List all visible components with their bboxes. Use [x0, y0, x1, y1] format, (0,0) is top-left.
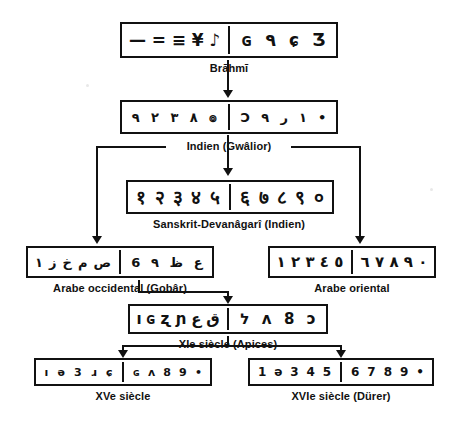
box-divider	[228, 26, 230, 54]
numeral-glyph: ٥	[334, 255, 343, 270]
numeral-glyph: 1	[258, 366, 266, 378]
scan-speck	[430, 188, 433, 191]
numeral-glyph: ق	[206, 312, 219, 327]
glyph-half-right: 6٩ظع	[122, 248, 212, 276]
numeral-glyph: ǝ	[274, 366, 282, 378]
numeral-glyph: م	[78, 256, 88, 269]
numeral-glyph: १	[136, 188, 146, 207]
numeral-glyph: ¥	[192, 32, 204, 49]
arrowhead-to-xve	[118, 350, 128, 358]
numeral-box-gwalior: ٩٢٣٨๏ Ɔ٩ر١•	[120, 100, 338, 134]
numeral-glyph: ٦	[361, 255, 370, 270]
glyph-half-left: 1ǝ345	[250, 360, 339, 384]
numeral-glyph: 6	[131, 256, 140, 269]
numeral-glyph: ♪	[209, 32, 220, 49]
numeral-glyph: •	[318, 111, 326, 124]
glyph-half-left: ıɢʐɲعق	[130, 306, 226, 332]
numeral-glyph: ظ	[170, 256, 184, 269]
glyph-half-left: ١زخمص	[28, 248, 118, 276]
numeral-glyph: •	[195, 367, 202, 378]
caption-gwalior: Indien (Gwâlior)	[187, 140, 272, 152]
numeral-glyph: 8	[284, 312, 294, 327]
numeral-glyph: ١	[277, 255, 286, 270]
numeral-box-arabe-oriental: ١٢٣٤٥ ٦٧٨٩٠	[268, 246, 436, 278]
numeral-glyph: ɲ	[176, 312, 187, 327]
caption-devanagari: Sanskrit-Devanâgarî (Indien)	[153, 218, 305, 230]
numeral-box-apices: ıɢʐɲعق לʌ8ɔ	[128, 304, 328, 334]
arrowhead-to-apices	[223, 296, 233, 304]
arrowhead-brahmi-to-gwalior	[223, 90, 233, 98]
numeral-glyph: ३	[173, 188, 183, 207]
glyph-half-left: —=≡¥♪	[122, 24, 227, 56]
numeral-glyph: ८	[277, 188, 287, 207]
box-divider	[228, 104, 230, 130]
numeral-glyph: ל	[240, 312, 249, 327]
connector-bus-to-arabe-oriental	[359, 146, 361, 238]
connector-gobar-to-apices-h	[138, 291, 228, 293]
numeral-glyph: ٩	[265, 32, 275, 49]
glyph-half-right: ɢ٩ɕƷ	[231, 24, 336, 56]
numeral-glyph: 8	[163, 367, 171, 378]
numeral-glyph: 3	[290, 366, 298, 378]
bus-line-right	[291, 146, 361, 148]
glyph-half-left: ١٢٣٤٥	[270, 248, 350, 276]
numeral-glyph: ٩	[132, 111, 140, 124]
numeral-glyph: ١	[35, 256, 43, 269]
box-divider	[119, 250, 121, 274]
numeral-glyph: ٢	[151, 111, 159, 124]
bus-line-left	[96, 146, 166, 148]
numeral-glyph: ɹ	[91, 367, 97, 378]
numeral-glyph: خ	[63, 256, 72, 269]
glyph-row: ١٢٣٤٥ ٦٧٨٩٠	[270, 248, 434, 276]
numeral-box-xvie-siecle: 1ǝ345 6789•	[248, 358, 434, 386]
glyph-half-left: ıǝ3ɹɕ	[36, 360, 121, 384]
glyph-row: 1ǝ345 6789•	[250, 360, 432, 384]
glyph-row: ١زخمص 6٩ظع	[28, 248, 212, 276]
numeral-box-xve-siecle: ıǝ3ɹɕ ɢʌ89•	[34, 358, 212, 386]
glyph-half-right: Ɔ٩ر١•	[231, 102, 336, 132]
caption-brahmi: Brāhmī	[210, 62, 249, 74]
glyph-half-right: 6789•	[343, 360, 432, 384]
numeral-glyph: Ʒ	[312, 32, 325, 49]
numeral-glyph: ǝ	[57, 367, 64, 378]
numeral-box-devanagari: १२३४५ ६७८९०	[126, 180, 334, 214]
numeral-glyph: ɕ	[106, 367, 113, 378]
glyph-half-right: ٦٧٨٩٠	[354, 248, 434, 276]
numeral-glyph: ɢ	[133, 367, 140, 378]
numeral-glyph: 5	[323, 366, 331, 378]
numeral-glyph: ≡	[172, 32, 186, 49]
numeral-box-gobar: ١زخمص 6٩ظع	[26, 246, 214, 278]
numeral-glyph: —	[129, 32, 146, 49]
diagram-canvas: —=≡¥♪ ɢ٩ɕƷ Brāhmī ٩٢٣٨๏ Ɔ٩ر١• Indien (Gw…	[0, 0, 461, 426]
numeral-glyph: ٩	[151, 256, 159, 269]
numeral-glyph: 8	[384, 366, 392, 378]
glyph-row: १२३४५ ६७८९०	[128, 182, 332, 212]
numeral-glyph: ٠	[418, 255, 427, 270]
numeral-glyph: ص	[93, 256, 111, 269]
numeral-glyph: ٨	[389, 255, 398, 270]
connector-brahmi-to-gwalior	[227, 60, 229, 92]
numeral-glyph: ʌ	[148, 367, 155, 378]
glyph-row: —=≡¥♪ ɢ٩ɕƷ	[122, 24, 336, 56]
box-divider	[227, 308, 229, 330]
numeral-glyph: ٨	[190, 111, 198, 124]
numeral-glyph: ٧	[375, 255, 384, 270]
numeral-glyph: ɢ	[146, 312, 155, 327]
numeral-glyph: ४	[191, 188, 201, 207]
numeral-box-brahmi: —=≡¥♪ ɢ٩ɕƷ	[120, 22, 338, 58]
box-divider	[340, 362, 342, 382]
numeral-glyph: ٣	[305, 255, 314, 270]
numeral-glyph: ı	[45, 367, 49, 378]
caption-xve-siecle: XVe siècle	[96, 390, 151, 402]
numeral-glyph: 3	[74, 367, 82, 378]
numeral-glyph: 7	[367, 366, 375, 378]
numeral-glyph: ع	[191, 312, 201, 327]
caption-arabe-oriental: Arabe oriental	[314, 282, 389, 294]
numeral-glyph: 6	[351, 366, 359, 378]
numeral-glyph: ٩	[261, 111, 269, 124]
arrowhead-bus-to-arabe-oriental	[355, 236, 365, 244]
glyph-half-right: לʌ8ɔ	[230, 306, 326, 332]
box-divider	[229, 184, 231, 210]
numeral-glyph: ɔ	[307, 312, 316, 327]
numeral-glyph: ز	[49, 256, 56, 269]
